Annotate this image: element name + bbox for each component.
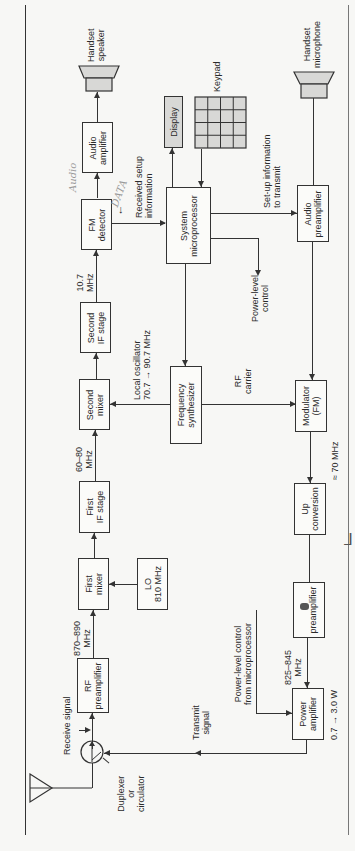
receive-signal-label: Receive signal	[62, 696, 72, 755]
preamplifier-block: preamplifier	[293, 582, 325, 638]
freq-10-7-label: 10.7 MHz	[75, 274, 95, 293]
microphone-icon	[293, 72, 335, 100]
lo-810-block: LO 810 MHz	[137, 558, 168, 610]
handset-microphone-label: Handset microphone	[302, 21, 322, 68]
second-if-stage-block: Second IF stage	[80, 302, 111, 353]
transmit-signal-label: Transmit signal	[191, 705, 211, 740]
duplexer-icon	[80, 740, 104, 764]
rf-preamplifier-block: RF preamplifier	[77, 658, 109, 713]
local-oscillator-label: Local oscillator 70.7 → 90.7 MHz	[132, 330, 152, 400]
arrow-icon	[93, 250, 99, 256]
power-control-from-micro-label: Power-level control from microprocessor	[233, 623, 253, 705]
setup-to-transmit-label: Set-up information to transmit	[262, 134, 282, 208]
arrow-icon	[85, 727, 91, 733]
second-mixer-block: Second mixer	[79, 379, 110, 430]
first-if-stage-block: First IF stage	[79, 481, 110, 533]
arrow-icon	[104, 750, 110, 756]
freq-825-845-label: 825–845 MHz	[283, 650, 303, 685]
power-out-label: 0.7 → 3.0 W	[329, 690, 339, 740]
rf-carrier-label: RF carrier	[233, 368, 253, 394]
power-level-control-label: Power-level control	[250, 275, 270, 322]
left-border	[25, 5, 26, 835]
audio-amplifier-block: Audio amplifier	[82, 122, 113, 173]
arrow-icon	[195, 750, 201, 756]
arrow-icon	[91, 533, 97, 539]
duplexer-label: Duplexer or circulator	[116, 775, 146, 812]
pen-mark: ⅃	[344, 530, 353, 549]
freq-60-80-label: 60–80 MHz	[74, 447, 94, 472]
fm-detector-block: FM detector	[81, 199, 112, 250]
keypad-label: Keypad	[212, 61, 222, 92]
first-mixer-block: First mixer	[78, 558, 109, 610]
freq-70-label: ≈ 70 MHz	[330, 442, 340, 480]
right-border	[348, 5, 349, 835]
modulator-block: Modulator (FM)	[295, 380, 327, 432]
audio-preamplifier-block: Audio preamplifier	[297, 185, 329, 242]
keypad-icon	[194, 96, 248, 149]
arrow-icon	[93, 353, 99, 359]
arrow-icon	[94, 173, 100, 179]
handset-speaker-label: Handset speaker	[86, 28, 106, 62]
display-block: Display	[164, 96, 183, 148]
arrow-icon	[90, 610, 96, 616]
handwritten-data: DATA	[110, 179, 129, 209]
speaker-icon	[78, 66, 120, 106]
arrow-icon	[92, 430, 98, 436]
power-amplifier-block: Power amplifier	[292, 688, 324, 740]
received-setup-label: Received setup information	[134, 156, 154, 218]
handwritten-audio: Audio	[68, 163, 78, 192]
arrow-icon	[89, 713, 95, 719]
system-microprocessor-block: System microprocessor	[166, 187, 211, 264]
arrow-icon	[169, 148, 175, 154]
freq-870-890-label: 870–890 MHz	[72, 621, 92, 656]
arrow-icon	[109, 581, 115, 587]
antenna-icon	[28, 772, 96, 806]
arrow-icon	[94, 92, 100, 98]
smudge-mark	[300, 603, 309, 610]
arrow-icon	[110, 401, 116, 407]
up-conversion-block: Up conversion	[294, 483, 326, 535]
frequency-synthesizer-block: Frequency synthesizer	[170, 366, 202, 444]
